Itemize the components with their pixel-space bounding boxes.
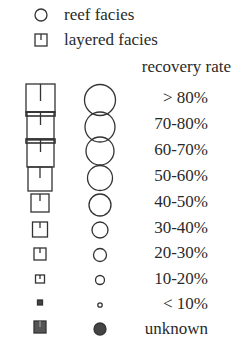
square-60-70-icon: [26, 139, 55, 167]
circle-50-60-icon: [88, 166, 113, 191]
layered-facies-square-icon: [35, 34, 47, 46]
recovery-rate-title: recovery rate: [142, 57, 231, 77]
square-70-80-icon: [26, 112, 55, 140]
square-unknown-icon: [34, 321, 46, 333]
rate-label-10-20: 10-20%: [154, 269, 208, 289]
rate-label-20-30: 20-30%: [154, 243, 208, 263]
circle-30-40-icon: [92, 222, 108, 238]
square-10-20-icon: [36, 275, 45, 283]
rate-label-lt10: < 10%: [163, 294, 208, 314]
square-lt10-icon: [38, 300, 43, 305]
circle-unknown-icon: [94, 323, 106, 335]
rate-label-50-60: 50-60%: [154, 166, 208, 186]
rate-label-gt80: > 80%: [163, 88, 208, 108]
square-stack: [26, 84, 55, 333]
square-20-30-icon: [34, 248, 46, 260]
circle-gt80-icon: [85, 85, 116, 116]
rate-label-40-50: 40-50%: [154, 192, 208, 212]
circle-40-50-icon: [89, 194, 111, 216]
circle-lt10-icon: [98, 303, 102, 307]
rate-label-60-70: 60-70%: [154, 140, 208, 160]
square-40-50-icon: [31, 194, 49, 212]
circle-60-70-icon: [86, 137, 114, 165]
square-30-40-icon: [33, 222, 48, 237]
square-gt80-icon: [26, 84, 55, 112]
layered-facies-label: layered facies: [64, 30, 158, 50]
circle-stack: [85, 85, 116, 336]
reef-facies-label: reef facies: [64, 5, 134, 25]
square-50-60-icon: [28, 167, 52, 191]
reef-facies-circle-icon: [35, 9, 47, 21]
circle-20-30-icon: [94, 249, 107, 262]
circle-10-20-icon: [96, 276, 105, 285]
rate-label-unknown: unknown: [145, 319, 208, 339]
rate-label-30-40: 30-40%: [154, 218, 208, 238]
rate-label-70-80: 70-80%: [154, 114, 208, 134]
